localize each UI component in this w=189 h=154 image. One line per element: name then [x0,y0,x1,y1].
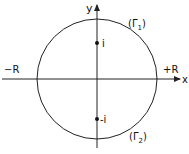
point-i-label: i [102,38,105,49]
x-axis-label: x [182,74,188,85]
contour-diagram: y x i -i −R +R (Γ1) (Γ2) [0,0,189,154]
y-axis-label: y [86,2,93,15]
pos-r-label: +R [163,64,178,75]
point-i [95,41,99,45]
point-minus-i [95,117,99,121]
gamma2-label: (Γ2) [129,131,147,145]
neg-r-label: −R [4,64,19,75]
point-minus-i-label: -i [100,114,106,125]
